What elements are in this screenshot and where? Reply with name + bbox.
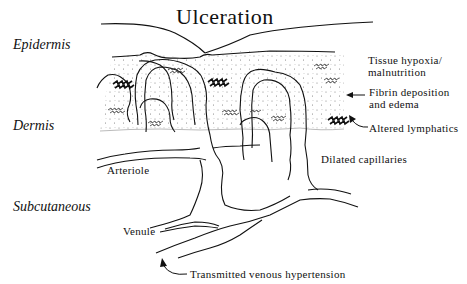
annotation-fibrin: Fibrin deposition and edema bbox=[369, 86, 450, 110]
annotation-dilated-capillaries: Dilated capillaries bbox=[321, 153, 407, 165]
dermis-stipple-region bbox=[100, 51, 344, 131]
diagram-title: Ulceration bbox=[176, 6, 274, 28]
venule-inner-line bbox=[160, 226, 218, 232]
vein-upper-wall bbox=[156, 199, 358, 253]
annotation-arteriole: Arteriole bbox=[107, 164, 149, 176]
annotation-fibrin-line2: and edema bbox=[369, 98, 450, 110]
capillary-descending-left bbox=[150, 160, 203, 228]
layer-label-epidermis: Epidermis bbox=[13, 38, 71, 52]
annotation-altered-lymphatics: Altered lymphatics bbox=[369, 122, 458, 134]
annotation-tissue-hypoxia-line1: Tissue hypoxia/ bbox=[368, 54, 442, 66]
venule-upper-wall bbox=[165, 222, 219, 229]
lymphatics-arrow bbox=[349, 115, 368, 127]
annotation-tissue-hypoxia: Tissue hypoxia/ malnutrition bbox=[368, 54, 442, 78]
annotation-tissue-hypoxia-line2: malnutrition bbox=[368, 66, 442, 78]
dilated-capillary-base bbox=[308, 189, 351, 194]
fibrin-arrow bbox=[346, 92, 365, 98]
annotation-venule: Venule bbox=[123, 225, 155, 237]
layer-label-dermis: Dermis bbox=[13, 119, 54, 133]
layer-label-subcutaneous: Subcutaneous bbox=[13, 200, 91, 214]
annotation-transmitted-venous-hypertension: Transmitted venous hypertension bbox=[190, 268, 346, 280]
capillary-descending-right bbox=[216, 155, 290, 210]
venous-ulcer-diagram: Ulceration Epidermis Dermis Subcutaneous… bbox=[0, 0, 467, 284]
capillary-upper-connector bbox=[213, 145, 260, 148]
annotation-fibrin-line1: Fibrin deposition bbox=[369, 86, 450, 98]
transmitted-arrow bbox=[160, 258, 187, 274]
